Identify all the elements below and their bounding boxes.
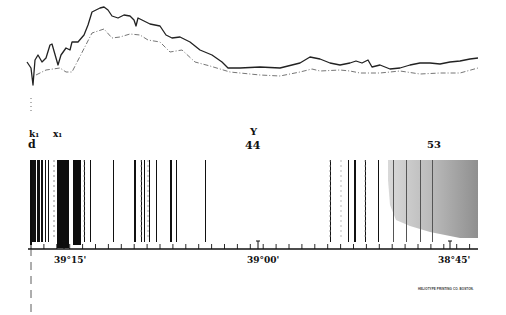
absorption-line — [378, 160, 379, 242]
label-Y: Y — [250, 126, 257, 137]
absorption-line — [90, 160, 91, 242]
label-53: 53 — [427, 139, 441, 150]
absorption-line — [354, 160, 356, 242]
label-x1: x₁ — [53, 129, 62, 139]
spectrum-band — [30, 160, 478, 248]
absorption-line — [406, 160, 407, 242]
absorption-line — [41, 160, 43, 242]
intensity-traces — [27, 7, 478, 85]
printer-credit: HELIOTYPE PRINTING CO. BOSTON. — [418, 287, 474, 291]
label-d: d — [28, 138, 36, 151]
absorption-line — [420, 160, 421, 242]
absorption-line — [45, 160, 46, 242]
scale-label-39-15: 39°15' — [54, 255, 86, 265]
absorption-line — [393, 160, 394, 242]
absorption-line — [149, 160, 150, 242]
absorption-line — [176, 160, 177, 242]
absorption-line — [144, 160, 145, 242]
absorption-line — [205, 160, 206, 242]
scale-label-38-45: 38°45' — [438, 255, 470, 265]
absorption-line — [348, 160, 349, 242]
absorption-line — [432, 160, 433, 242]
dense-line-band — [73, 160, 81, 245]
lower-trace — [36, 29, 478, 76]
figure-canvas — [0, 0, 506, 315]
absorption-line — [170, 160, 172, 242]
absorption-line — [134, 160, 136, 242]
absorption-line — [113, 160, 114, 242]
absorption-line — [32, 160, 36, 242]
absorption-line — [37, 160, 40, 242]
scale-label-39-00: 39°00' — [247, 255, 279, 265]
upper-trace — [27, 7, 478, 85]
dense-line-band — [57, 160, 69, 248]
wavelength-scale — [28, 241, 478, 249]
absorption-line — [156, 160, 157, 242]
absorption-line — [48, 160, 49, 242]
spectrum-plate: k₁ x₁ d Y 44 53 39°15' 39°00' 38°45' HEL… — [0, 0, 506, 315]
dense-line-band — [30, 160, 32, 245]
label-44: 44 — [245, 139, 260, 152]
